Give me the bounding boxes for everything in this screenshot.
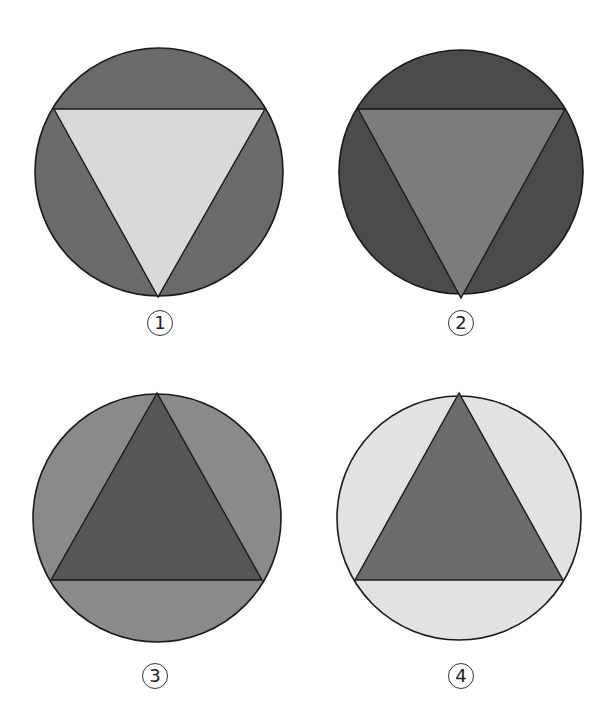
figure-3 xyxy=(33,393,281,642)
figure-label-2: 2 xyxy=(448,310,474,336)
figure-2 xyxy=(339,50,583,298)
figure-4 xyxy=(337,393,581,640)
figure-label-3: 3 xyxy=(142,663,168,689)
diagram-canvas xyxy=(0,0,614,715)
figure-label-4: 4 xyxy=(448,663,474,689)
figure-1 xyxy=(35,48,283,297)
figure-label-1: 1 xyxy=(147,310,173,336)
